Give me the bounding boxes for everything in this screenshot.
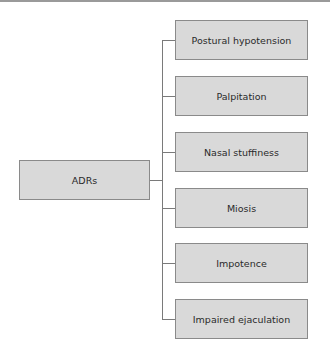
- connector-branch-4: [162, 208, 175, 209]
- connector-branch-2: [162, 96, 175, 97]
- node-label: Nasal stuffiness: [204, 147, 279, 158]
- connector-trunk: [162, 40, 163, 320]
- node-palpitation: Palpitation: [175, 76, 308, 116]
- node-nasal-stuffiness: Nasal stuffiness: [175, 132, 308, 172]
- node-label: Palpitation: [216, 91, 266, 102]
- node-postural-hypotension: Postural hypotension: [175, 20, 308, 60]
- connector-branch-3: [162, 152, 175, 153]
- connector-root: [150, 180, 162, 181]
- root-node-label: ADRs: [72, 175, 97, 186]
- connector-branch-1: [162, 40, 175, 41]
- node-impotence: Impotence: [175, 243, 308, 283]
- node-miosis: Miosis: [175, 188, 308, 228]
- top-border: [0, 0, 330, 2]
- connector-branch-6: [162, 319, 175, 320]
- node-label: Postural hypotension: [192, 35, 292, 46]
- node-label: Miosis: [227, 203, 256, 214]
- node-label: Impaired ejaculation: [193, 314, 290, 325]
- node-impaired-ejaculation: Impaired ejaculation: [175, 299, 308, 339]
- connector-branch-5: [162, 263, 175, 264]
- node-label: Impotence: [216, 258, 267, 269]
- root-node-adrs: ADRs: [19, 160, 150, 200]
